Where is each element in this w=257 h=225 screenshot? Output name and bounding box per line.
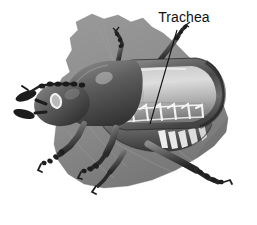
hindleg-near-tarsus (196, 168, 232, 185)
label-trachea-text: Trachea (158, 9, 210, 25)
hindleg-trailing-claw (92, 186, 96, 194)
beetle-trachea-illustration: Trachea (0, 0, 257, 225)
antenna-tip (22, 86, 28, 90)
mandible-base-lower (35, 112, 46, 113)
mandible-lower (12, 107, 36, 121)
figure-root: Trachea (0, 0, 257, 225)
